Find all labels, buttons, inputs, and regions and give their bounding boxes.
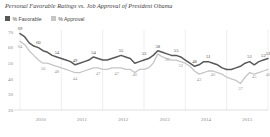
svg-text:43: 43	[197, 77, 202, 82]
svg-text:47: 47	[114, 71, 119, 76]
svg-text:58: 58	[155, 44, 160, 49]
svg-text:55: 55	[174, 48, 179, 53]
svg-text:44: 44	[73, 76, 78, 81]
x-axis-ticks: 201020112012201320142015	[36, 117, 253, 122]
svg-text:40: 40	[8, 77, 14, 82]
svg-text:51: 51	[247, 54, 252, 59]
svg-text:49: 49	[73, 58, 78, 63]
svg-text:2011: 2011	[77, 117, 87, 122]
svg-text:30: 30	[8, 92, 14, 97]
svg-text:2012: 2012	[118, 117, 129, 122]
svg-text:69: 69	[18, 26, 23, 31]
legend-swatch-favorable	[5, 16, 10, 21]
svg-text:48: 48	[54, 69, 59, 74]
svg-text:60: 60	[36, 40, 41, 45]
svg-text:70: 70	[8, 30, 14, 35]
svg-text:2010: 2010	[36, 117, 47, 122]
svg-text:45: 45	[252, 74, 257, 79]
svg-text:56: 56	[165, 57, 170, 62]
svg-text:37: 37	[238, 86, 243, 91]
svg-text:51: 51	[206, 54, 211, 59]
svg-text:54: 54	[91, 50, 96, 55]
svg-text:46: 46	[266, 72, 270, 77]
line-chart-svg: 706050403020 201020112012201320142015 69…	[0, 26, 270, 137]
svg-text:2014: 2014	[201, 117, 212, 122]
legend-swatch-approval	[51, 16, 56, 21]
svg-text:2015: 2015	[242, 117, 253, 122]
svg-text:53: 53	[142, 51, 147, 56]
svg-text:46: 46	[133, 72, 138, 77]
svg-text:48: 48	[192, 59, 197, 64]
legend-item-favorable: % Favorable	[5, 16, 42, 22]
svg-text:64: 64	[18, 44, 23, 49]
legend-label-approval: % Approval	[58, 16, 84, 22]
svg-text:53: 53	[266, 51, 270, 56]
chart-title: Personal Favorable Ratings vs. Job Appro…	[5, 2, 172, 9]
chart-container: Personal Favorable Ratings vs. Job Appro…	[0, 0, 270, 137]
legend-label-favorable: % Favorable	[13, 16, 42, 22]
svg-text:47: 47	[96, 71, 101, 76]
svg-text:60: 60	[8, 45, 14, 50]
plot-area: 706050403020 201020112012201320142015 69…	[0, 26, 270, 137]
legend-item-approval: % Approval	[51, 16, 85, 22]
svg-text:2013: 2013	[160, 117, 171, 122]
svg-text:52: 52	[178, 63, 183, 68]
svg-text:55: 55	[119, 48, 124, 53]
svg-text:50: 50	[41, 66, 46, 71]
svg-text:46: 46	[211, 72, 216, 77]
chart-legend: % Favorable % Approval	[5, 14, 84, 23]
svg-text:20: 20	[8, 108, 14, 113]
svg-text:50: 50	[8, 61, 14, 66]
y-axis-ticks: 706050403020	[8, 30, 14, 113]
svg-text:54: 54	[54, 50, 59, 55]
